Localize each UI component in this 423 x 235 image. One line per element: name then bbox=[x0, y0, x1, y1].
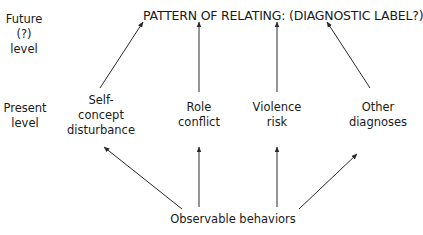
node-self-concept: Self- concept disturbance bbox=[66, 93, 136, 138]
node-role-conflict: Role conflict bbox=[174, 100, 224, 130]
arrow-behaviors-to-other bbox=[299, 154, 357, 209]
pattern-title: PATTERN OF RELATING: (DIAGNOSTIC LABEL?) bbox=[143, 8, 423, 23]
observable-behaviors: Observable behaviors bbox=[163, 212, 303, 227]
node-other-diagnoses: Other diagnoses bbox=[345, 100, 411, 130]
future-level-label: Future (?) level bbox=[2, 12, 46, 57]
arrow-self-to-pattern bbox=[100, 22, 143, 88]
arrow-behaviors-to-self bbox=[104, 147, 182, 209]
present-level-label: Present level bbox=[2, 101, 48, 131]
node-violence-risk: Violence risk bbox=[247, 100, 307, 130]
arrow-other-to-pattern bbox=[327, 22, 370, 88]
